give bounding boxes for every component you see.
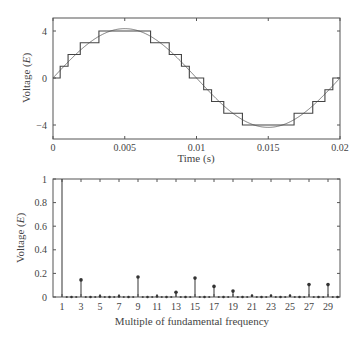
x-tick-label: 21 — [247, 301, 257, 312]
x-tick-label: 3 — [79, 301, 84, 312]
stem-marker — [307, 283, 311, 287]
harmonic-spectrum-plot: 00.20.40.60.811357911131517192123252729 … — [14, 174, 340, 328]
top-plot-ticks: 00.0050.010.0150.0240−4 — [36, 18, 348, 153]
x-tick-label: 0 — [51, 142, 56, 153]
stem-marker — [279, 296, 282, 299]
stem-marker — [165, 296, 168, 299]
x-tick-label: 1 — [60, 301, 65, 312]
top-x-axis-label: Time (s) — [177, 152, 215, 165]
stem-marker — [212, 285, 216, 289]
top-y-axis-label: Voltage (E) — [20, 53, 33, 104]
stem-marker — [174, 290, 178, 294]
stem-marker — [108, 296, 111, 299]
stem-marker — [298, 296, 301, 299]
x-tick-label: 25 — [285, 301, 295, 312]
x-tick-label: 13 — [171, 301, 181, 312]
stem-marker — [241, 296, 244, 299]
y-tick-label: 0.2 — [35, 268, 48, 279]
x-tick-label: 27 — [304, 301, 314, 312]
y-tick-label: 1 — [42, 174, 47, 185]
bottom-x-axis-label: Multiple of fundamental frequency — [115, 315, 270, 327]
bottom-plot-ticks: 00.20.40.60.811357911131517192123252729 — [35, 174, 341, 313]
stem-marker — [251, 295, 254, 298]
x-tick-label: 7 — [117, 301, 122, 312]
stem-marker — [326, 283, 330, 287]
stem-marker — [127, 296, 130, 299]
staircase-waveform — [53, 31, 340, 125]
x-tick-label: 15 — [190, 301, 200, 312]
stem-marker — [193, 276, 197, 280]
stem-marker — [222, 296, 225, 299]
stem-marker — [317, 296, 320, 299]
stem-marker — [260, 296, 263, 299]
stem-marker — [184, 296, 187, 299]
y-tick-label: 0.6 — [35, 221, 48, 232]
stem-marker — [136, 275, 140, 279]
stem-marker — [270, 295, 273, 298]
harmonic-stems — [62, 179, 339, 298]
y-tick-label: −4 — [36, 120, 47, 131]
x-tick-label: 0.005 — [114, 142, 137, 153]
stem-marker — [336, 296, 339, 299]
x-tick-label: 29 — [323, 301, 333, 312]
x-tick-label: 0.02 — [331, 142, 349, 153]
y-tick-label: 0.4 — [35, 244, 48, 255]
stem-marker — [146, 296, 149, 299]
stem-marker — [156, 295, 159, 298]
x-tick-label: 19 — [228, 301, 238, 312]
stem-marker — [99, 295, 102, 298]
stem-marker — [70, 296, 73, 299]
y-tick-label: 0 — [42, 292, 47, 303]
chart-figure: 00.0050.010.0150.0240−4 Time (s) Voltage… — [0, 0, 360, 341]
stem-marker — [89, 296, 92, 299]
x-tick-label: 5 — [98, 301, 103, 312]
y-tick-label: 4 — [42, 26, 47, 37]
y-tick-label: 0.8 — [35, 197, 48, 208]
stem-marker — [203, 296, 206, 299]
stem-marker — [289, 295, 292, 298]
x-tick-label: 0.015 — [257, 142, 280, 153]
x-tick-label: 17 — [209, 301, 219, 312]
x-tick-label: 11 — [152, 301, 162, 312]
bottom-y-axis-label: Voltage (E) — [14, 213, 27, 264]
time-domain-plot: 00.0050.010.0150.0240−4 Time (s) Voltage… — [20, 18, 349, 165]
y-tick-label: 0 — [42, 73, 47, 84]
stem-marker — [79, 278, 83, 282]
stem-marker — [118, 295, 121, 298]
x-tick-label: 23 — [266, 301, 276, 312]
x-tick-label: 9 — [136, 301, 141, 312]
stem-marker — [231, 289, 235, 293]
bottom-plot-frame — [53, 179, 340, 297]
